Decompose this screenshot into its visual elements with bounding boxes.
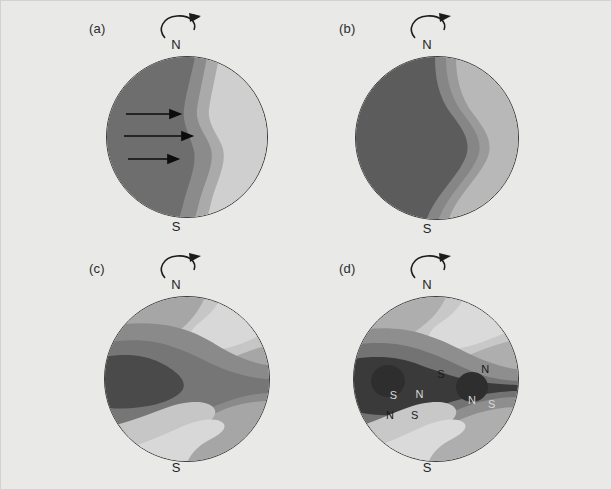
panel-d-pole-south: S <box>417 460 437 475</box>
panel-c-label: (c) <box>89 261 105 276</box>
panel-d: (d) N S N <box>307 246 612 490</box>
panel-a-pole-north: N <box>166 37 186 52</box>
panel-b-label: (b) <box>339 21 356 36</box>
panel-b-contour-map <box>356 57 519 220</box>
panel-c-sphere-wrap <box>104 296 270 462</box>
panel-d-label: (d) <box>339 261 356 276</box>
panel-b: (b) N S <box>307 1 612 246</box>
panel-a-flow-arrows <box>124 106 214 168</box>
panel-d-contour-map <box>354 297 519 462</box>
panel-c-contour-map <box>105 297 270 462</box>
panel-d-pole-north: N <box>417 277 437 292</box>
panel-a: (a) N <box>1 1 307 246</box>
panel-b-pole-south: S <box>417 221 437 236</box>
figure-canvas: (a) N <box>0 0 612 490</box>
panel-c-pole-south: S <box>166 460 186 475</box>
panel-a-sphere-wrap <box>106 56 268 218</box>
panel-a-pole-south: S <box>166 219 186 234</box>
panel-d-sphere-wrap: S N S N N S N S <box>353 296 519 462</box>
panel-d-sphere: S N S N N S N S <box>353 296 519 462</box>
panel-b-sphere <box>355 56 519 220</box>
panel-b-pole-north: N <box>417 37 437 52</box>
panel-a-label: (a) <box>89 21 106 36</box>
panel-c-pole-north: N <box>166 277 186 292</box>
panel-c: (c) N S <box>1 246 307 490</box>
panel-c-sphere <box>104 296 270 462</box>
panel-b-sphere-wrap <box>355 56 519 220</box>
